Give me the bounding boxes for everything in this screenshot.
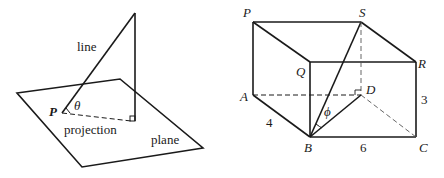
vertex-q-label: Q bbox=[296, 64, 306, 79]
vertex-b-label: B bbox=[304, 140, 312, 155]
angle-arc bbox=[66, 108, 70, 113]
line-plane-figure: line P θ projection plane bbox=[17, 13, 203, 167]
vertex-r-label: R bbox=[417, 56, 426, 71]
dimension-ab-label: 4 bbox=[266, 115, 273, 130]
point-p-label: P bbox=[49, 104, 58, 119]
line-label: line bbox=[77, 39, 97, 54]
dimension-rc-label: 3 bbox=[421, 92, 428, 107]
projection-segment bbox=[62, 113, 131, 121]
line-segment bbox=[62, 13, 135, 113]
projection-label: projection bbox=[64, 122, 117, 137]
diagonal-bd bbox=[310, 95, 361, 137]
dimension-bc-label: 6 bbox=[360, 140, 367, 155]
plane-label: plane bbox=[151, 132, 179, 147]
vertex-s-label: S bbox=[359, 5, 366, 20]
vertex-p-label: P bbox=[242, 5, 251, 20]
phi-label: ϕ bbox=[324, 104, 331, 119]
diagonal-bs bbox=[310, 22, 361, 137]
vertex-a-label: A bbox=[239, 89, 248, 104]
vertex-d-label: D bbox=[365, 82, 376, 97]
diagram-canvas: line P θ projection plane P S Q R A D B … bbox=[0, 0, 444, 178]
theta-label: θ bbox=[74, 98, 81, 113]
vertex-c-label: C bbox=[419, 140, 428, 155]
cuboid-figure: P S Q R A D B C ϕ 4 6 3 bbox=[239, 5, 428, 155]
